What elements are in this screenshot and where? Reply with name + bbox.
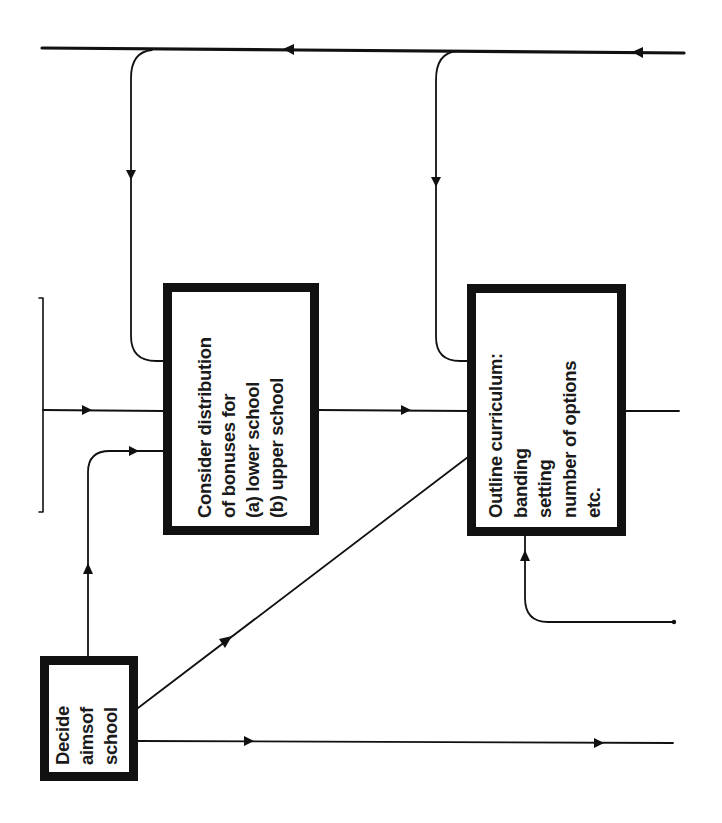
- right-input-to-curriculum: [525, 535, 674, 622]
- box-text-line: Decide: [51, 706, 75, 765]
- box-outline-curriculum-text: Outline curriculum: banding setting numb…: [484, 353, 607, 518]
- aims-output-line: [138, 741, 673, 743]
- top-feedback-line: [42, 48, 684, 53]
- arrow-down-icon: [126, 170, 136, 180]
- box-consider-bonuses-text: Consider distribution of bonuses for (a)…: [193, 337, 289, 518]
- box-text-line: (a) lower school: [241, 337, 265, 518]
- arrow-left-icon: [632, 47, 643, 58]
- arrow-left-icon: [283, 44, 294, 55]
- flowchart-diagram: Consider distribution of bonuses for (a)…: [0, 0, 722, 823]
- input-bracket: [39, 298, 43, 512]
- arrow-right-icon: [129, 446, 139, 456]
- box-text-line: Outline curriculum:: [484, 353, 509, 518]
- arrow-up-icon: [520, 550, 530, 561]
- feedback-branch-to-curriculum: [436, 51, 468, 361]
- arrow-down-icon: [431, 177, 441, 187]
- arrow-right-icon: [82, 405, 92, 415]
- box-text-line: etc.: [582, 353, 607, 518]
- arrow-up-icon: [83, 563, 93, 574]
- box-text-line: banding: [509, 353, 534, 518]
- box-text-line: Consider distribution: [193, 337, 217, 518]
- box-text-line: school: [99, 706, 123, 765]
- arrow-right-icon: [244, 736, 254, 746]
- arrow-right-icon: [401, 405, 411, 415]
- box-text-line: (b) upper school: [265, 337, 289, 518]
- feedback-branch-to-bonuses: [131, 50, 164, 361]
- line-end-dot: [672, 620, 676, 624]
- box-text-line: of bonuses for: [217, 337, 241, 518]
- box-decide-aims-text: Decide aimsof school: [51, 706, 123, 765]
- arrow-right-icon: [594, 738, 604, 748]
- bracket-to-bonuses-line: [43, 410, 164, 411]
- box-text-line: setting: [533, 353, 558, 518]
- bonuses-to-curriculum-line: [318, 410, 468, 411]
- box-text-line: number of options: [558, 353, 583, 518]
- arrow-diagonal-icon: [219, 636, 232, 648]
- aims-to-bonuses-line: [88, 451, 164, 656]
- box-text-line: aimsof: [75, 706, 99, 765]
